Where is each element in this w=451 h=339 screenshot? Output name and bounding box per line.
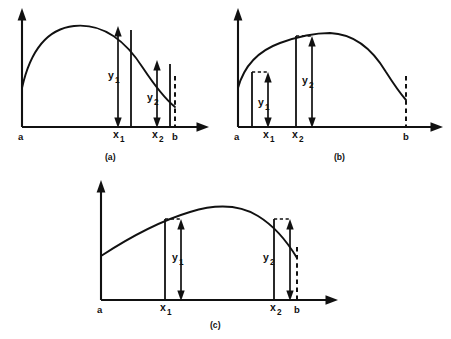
panel-a-x2-sub: 2 [159, 135, 164, 144]
panel-a-y-axis [18, 8, 27, 127]
panel-a-y2-sub: 2 [154, 98, 159, 107]
figure-root: a b x 1 x 2 y 1 y 2 (a) [0, 0, 451, 339]
panel-c-x-axis [101, 295, 338, 304]
panel-c-x1-base: x [160, 301, 166, 313]
panel-b-y2-base: y [302, 74, 308, 86]
panel-b-caption: (b) [334, 152, 345, 162]
panel-c-x2-sub: 2 [277, 308, 282, 317]
panel-c-y2-sub: 2 [270, 258, 275, 267]
panel-c-y-axis [97, 180, 106, 300]
panel-a-x2-base: x [152, 128, 158, 140]
panel-c-x1-sub: 1 [167, 308, 172, 317]
panel-b-y-axis [234, 8, 243, 127]
panel-c-label-y1: y 1 [172, 251, 184, 267]
panel-b-label-x1: x 1 [263, 128, 275, 144]
panel-c-label-b: b [294, 304, 300, 315]
panel-c-y2-base: y [263, 251, 269, 263]
panel-b-x2-base: x [292, 128, 298, 140]
panel-c: a b x 1 x 2 y 1 y 2 (c) [97, 180, 338, 330]
panel-a-x1-sub: 1 [120, 135, 125, 144]
panel-c-caption: (c) [210, 320, 221, 330]
panel-b-y1-sub: 1 [265, 103, 270, 112]
panel-b-label-b: b [403, 131, 409, 142]
panel-c-label-x1: x 1 [160, 301, 172, 317]
panel-a-label-b: b [172, 131, 178, 142]
panel-c-y1-sub: 1 [179, 258, 184, 267]
panel-a-x1-base: x [113, 128, 119, 140]
panel-a-caption: (a) [105, 152, 116, 162]
panel-b-y2-sub: 2 [309, 81, 314, 90]
panel-b-y1-base: y [258, 96, 264, 108]
panel-a-label-a: a [18, 131, 24, 142]
three-panel-ordinate-figure: a b x 1 x 2 y 1 y 2 (a) [0, 0, 451, 339]
panel-a-label-x2: x 2 [152, 128, 164, 144]
panel-a-label-x1: x 1 [113, 128, 125, 144]
panel-b: a b x 1 x 2 y 1 y 2 (b) [234, 8, 443, 162]
panel-a-y1-sub: 1 [115, 76, 120, 85]
panel-b-label-a: a [234, 131, 240, 142]
panel-b-x1-base: x [263, 128, 269, 140]
panel-b-x1-sub: 1 [270, 135, 275, 144]
panel-a: a b x 1 x 2 y 1 y 2 (a) [18, 8, 209, 162]
panel-a-y2-base: y [147, 91, 153, 103]
panel-c-x2-base: x [270, 301, 276, 313]
panel-b-curve [238, 33, 406, 100]
panel-b-x2-sub: 2 [299, 135, 304, 144]
panel-b-label-x2: x 2 [292, 128, 304, 144]
panel-c-label-x2: x 2 [270, 301, 282, 317]
panel-a-y1-base: y [108, 69, 114, 81]
panel-c-y1-base: y [172, 251, 178, 263]
panel-c-label-a: a [97, 304, 103, 315]
